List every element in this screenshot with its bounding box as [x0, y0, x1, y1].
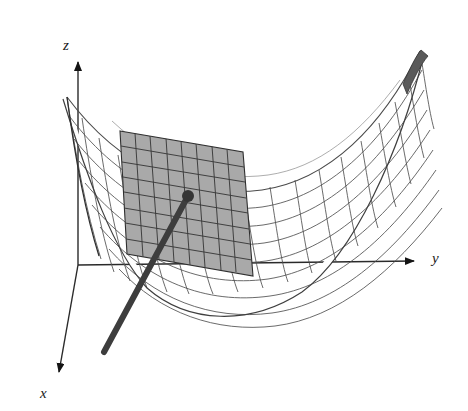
- surface-plot-svg: z y x: [0, 0, 468, 411]
- axis-x-line: [59, 265, 78, 372]
- axis-y-label: y: [430, 250, 439, 266]
- axis-x: x: [39, 265, 78, 401]
- figure-root: z y x: [0, 0, 468, 411]
- tangency-point-dot: [182, 190, 194, 202]
- axis-x-label: x: [39, 385, 47, 401]
- mesh-surface: [63, 50, 442, 327]
- axis-z-label: z: [62, 37, 69, 53]
